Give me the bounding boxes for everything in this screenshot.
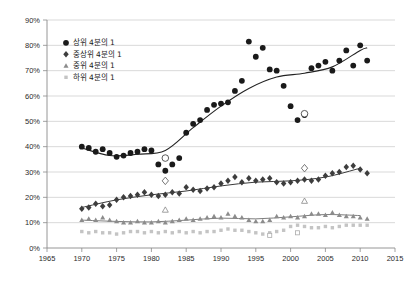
- data-point: [169, 162, 175, 168]
- x-tick-label: 1995: [247, 254, 264, 263]
- y-tick-label: 40%: [25, 142, 40, 151]
- data-point: [115, 232, 118, 235]
- data-point: [316, 63, 322, 69]
- data-point: [365, 224, 368, 227]
- data-point: [128, 150, 134, 156]
- data-point: [155, 162, 161, 168]
- data-point: [183, 130, 189, 136]
- x-tick-label: 1980: [143, 254, 160, 263]
- data-point: [309, 65, 315, 71]
- y-tick-label: 0%: [29, 244, 40, 253]
- data-point: [364, 58, 370, 64]
- data-point: [218, 101, 224, 107]
- data-point: [211, 102, 217, 108]
- data-point: [135, 149, 141, 155]
- data-point: [198, 231, 201, 234]
- data-point: [352, 224, 355, 227]
- data-point: [281, 83, 287, 89]
- data-point: [289, 225, 292, 228]
- y-tick-label: 70%: [25, 66, 40, 75]
- data-point: [338, 225, 341, 228]
- data-point: [108, 231, 111, 234]
- data-point: [101, 231, 104, 234]
- data-point: [343, 48, 349, 54]
- x-tick-label: 2005: [317, 254, 334, 263]
- data-point: [185, 231, 188, 234]
- data-point: [359, 224, 362, 227]
- data-point: [190, 121, 196, 127]
- data-point: [329, 68, 335, 74]
- data-point: [331, 226, 334, 229]
- data-point: [80, 230, 83, 233]
- y-tick-label: 60%: [25, 92, 40, 101]
- x-tick-label: 1985: [178, 254, 195, 263]
- y-tick-label: 50%: [25, 117, 40, 126]
- x-tick-label: 2015: [387, 254, 404, 263]
- data-point: [303, 225, 306, 228]
- data-point: [345, 224, 348, 227]
- legend-label-1: 상위 4분의 1: [73, 37, 116, 47]
- data-point: [350, 63, 356, 69]
- y-tick-label: 20%: [25, 193, 40, 202]
- data-point: [239, 78, 245, 84]
- data-point: [324, 225, 327, 228]
- data-point: [296, 224, 299, 227]
- data-point: [129, 230, 132, 233]
- data-point: [323, 59, 329, 65]
- y-tick-label: 10%: [25, 218, 40, 227]
- data-point: [86, 145, 92, 151]
- x-tick-label: 1970: [73, 254, 90, 263]
- data-point: [171, 231, 174, 234]
- data-point: [246, 39, 252, 45]
- data-point: [142, 146, 148, 152]
- data-point: [143, 231, 146, 234]
- legend-label-3: 중위 4분의 1: [73, 60, 116, 70]
- data-point: [94, 230, 97, 233]
- data-point: [93, 149, 99, 155]
- data-point: [247, 230, 250, 233]
- x-tick-label: 1965: [39, 254, 56, 263]
- data-point: [162, 168, 168, 174]
- y-tick-label: 90%: [25, 16, 40, 25]
- legend-label-2: 중상위 4분의 1: [73, 49, 123, 59]
- data-point: [240, 229, 243, 232]
- legend-label-4: 하위 4분의 1: [73, 72, 116, 82]
- data-point: [157, 231, 160, 234]
- data-point: [317, 226, 320, 229]
- data-point: [282, 229, 285, 232]
- quartile-scatter-chart: 0%10%20%30%40%50%60%70%80%90% 1965197019…: [0, 0, 416, 283]
- data-point: [357, 42, 363, 48]
- data-point: [136, 230, 139, 233]
- y-tick-label: 80%: [25, 41, 40, 50]
- data-point: [226, 227, 229, 230]
- chart-container: 0%10%20%30%40%50%60%70%80%90% 1965197019…: [0, 0, 416, 283]
- data-point: [178, 230, 181, 233]
- data-point: [233, 229, 236, 232]
- data-point: [197, 117, 203, 123]
- data-point-open: [268, 233, 272, 237]
- data-point: [274, 68, 280, 74]
- data-point: [225, 99, 231, 105]
- x-tick-label: 1990: [213, 254, 230, 263]
- data-point: [253, 54, 259, 60]
- legend-marker-1: [63, 40, 69, 46]
- data-point-open: [296, 231, 300, 235]
- data-point: [114, 154, 120, 160]
- data-point: [310, 226, 313, 229]
- data-point: [149, 148, 155, 154]
- data-point-open: [301, 110, 308, 117]
- data-point: [254, 231, 257, 234]
- data-point: [295, 117, 301, 123]
- data-point: [260, 45, 266, 51]
- x-tick-label: 2010: [352, 254, 369, 263]
- data-point: [204, 107, 210, 113]
- data-point: [150, 230, 153, 233]
- data-point: [267, 67, 273, 73]
- data-point: [232, 88, 238, 94]
- x-tick-label: 2000: [282, 254, 299, 263]
- data-point: [261, 232, 264, 235]
- x-tick-label: 1975: [108, 254, 125, 263]
- data-point: [79, 144, 85, 150]
- data-point-open: [162, 155, 169, 162]
- data-point: [288, 103, 294, 109]
